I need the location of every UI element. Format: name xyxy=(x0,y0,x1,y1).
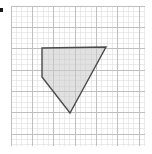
left-edge-tick xyxy=(0,8,3,12)
grid-figure-svg xyxy=(0,0,152,154)
figure-canvas xyxy=(0,0,152,154)
